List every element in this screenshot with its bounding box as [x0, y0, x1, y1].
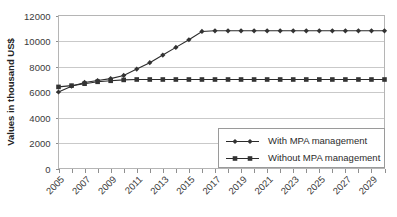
x-tick-label: 2015	[174, 174, 197, 197]
data-point-marker	[278, 77, 283, 82]
data-point-marker	[317, 77, 322, 82]
legend-item-label: Without MPA management	[268, 152, 381, 163]
x-tick-label: 2023	[278, 174, 301, 197]
data-point-marker	[291, 28, 296, 33]
y-tick-label: 6000	[29, 87, 50, 98]
y-tick-label: 12000	[24, 11, 50, 22]
data-point-marker	[173, 45, 178, 50]
x-tick-label: 2029	[357, 174, 380, 197]
data-point-marker	[248, 156, 253, 161]
data-point-marker	[330, 28, 335, 33]
data-point-marker	[239, 77, 244, 82]
x-axis-tick-labels: 2005200720092011201320152017201920212023…	[44, 174, 380, 197]
data-point-marker	[147, 60, 152, 65]
data-point-marker	[69, 83, 74, 88]
data-point-marker	[199, 29, 204, 34]
data-point-marker	[252, 28, 257, 33]
data-point-marker	[121, 73, 126, 78]
x-tick-label: 2017	[200, 174, 223, 197]
data-point-marker	[121, 78, 126, 83]
data-point-marker	[134, 77, 139, 82]
x-tick-label: 2021	[252, 174, 275, 197]
series-1	[56, 28, 387, 94]
line-chart: 020004000600080001000012000 200520072009…	[0, 0, 397, 217]
data-point-marker	[161, 77, 166, 82]
data-point-marker	[213, 77, 218, 82]
series-line	[59, 80, 385, 87]
x-tick-label: 2025	[304, 174, 327, 197]
y-tick-label: 4000	[29, 113, 50, 124]
data-point-marker	[265, 77, 270, 82]
y-tick-label: 10000	[24, 36, 50, 47]
x-tick-label: 2019	[226, 174, 249, 197]
data-point-marker	[56, 89, 61, 94]
y-tick-label: 8000	[29, 62, 50, 73]
data-point-marker	[82, 81, 87, 86]
chart-legend: With MPA managementWithout MPA managemen…	[219, 129, 385, 168]
y-tick-label: 0	[45, 164, 50, 175]
data-point-marker	[343, 77, 348, 82]
legend-item-label: With MPA management	[268, 135, 367, 146]
data-point-marker	[278, 28, 283, 33]
x-axis-tickmarks	[60, 169, 386, 173]
data-point-marker	[304, 77, 309, 82]
data-point-marker	[382, 77, 387, 82]
x-tick-label: 2013	[148, 174, 171, 197]
data-point-marker	[291, 77, 296, 82]
x-tick-label: 2005	[44, 174, 67, 197]
data-series	[56, 28, 387, 94]
data-point-marker	[382, 28, 387, 33]
data-point-marker	[174, 77, 179, 82]
data-point-marker	[238, 28, 243, 33]
data-point-marker	[147, 77, 152, 82]
x-tick-label: 2007	[70, 174, 93, 197]
data-point-marker	[233, 156, 238, 161]
data-point-marker	[160, 52, 165, 57]
data-point-marker	[95, 80, 100, 85]
data-point-marker	[187, 77, 192, 82]
data-point-marker	[356, 28, 361, 33]
y-axis-title: Values in thousand US$	[5, 37, 16, 145]
data-point-marker	[369, 28, 374, 33]
x-tick-label: 2011	[122, 174, 144, 196]
data-point-marker	[356, 77, 361, 82]
data-point-marker	[252, 77, 257, 82]
data-point-marker	[317, 28, 322, 33]
data-point-marker	[56, 85, 61, 90]
x-tick-label: 2009	[96, 174, 119, 197]
data-point-marker	[369, 77, 374, 82]
y-axis-tick-labels: 020004000600080001000012000	[24, 11, 50, 175]
data-point-marker	[330, 77, 335, 82]
data-point-marker	[212, 28, 217, 33]
data-point-marker	[265, 28, 270, 33]
chart-container: 020004000600080001000012000 200520072009…	[0, 0, 397, 217]
y-tick-label: 2000	[29, 138, 50, 149]
data-point-marker	[108, 78, 113, 83]
data-point-marker	[200, 77, 205, 82]
data-point-marker	[226, 77, 231, 82]
x-tick-label: 2027	[330, 174, 353, 197]
series-line	[59, 31, 385, 92]
data-point-marker	[225, 28, 230, 33]
data-point-marker	[304, 28, 309, 33]
data-point-marker	[343, 28, 348, 33]
